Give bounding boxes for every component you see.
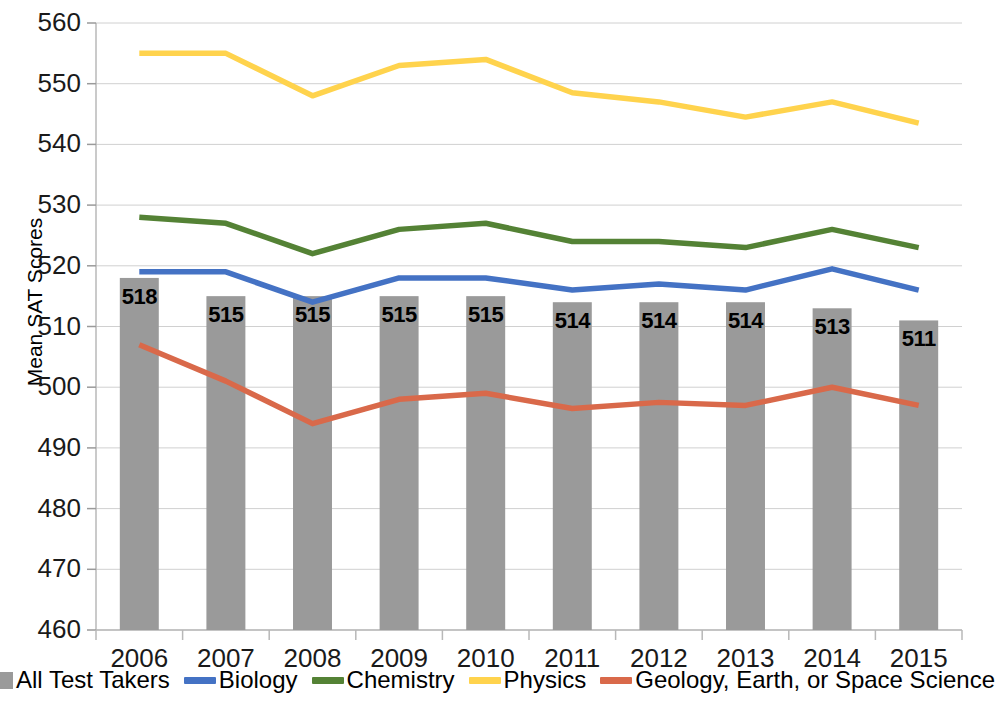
legend-label: Physics — [504, 668, 587, 692]
bar-value-label: 514 — [529, 308, 616, 334]
legend-item[interactable]: Physics — [469, 668, 587, 692]
legend-item[interactable]: All Test Takers — [0, 668, 170, 692]
series-line — [139, 269, 918, 302]
legend-label: All Test Takers — [16, 668, 170, 692]
y-tick-label: 470 — [19, 553, 81, 584]
series-line — [139, 53, 918, 123]
legend-bar-swatch-icon — [0, 672, 13, 689]
y-tick-label: 490 — [19, 432, 81, 463]
series-line — [139, 217, 918, 253]
bar — [206, 296, 245, 630]
legend-line-swatch-icon — [184, 677, 216, 684]
legend-label: Geology, Earth, or Space Science — [635, 668, 995, 692]
bar — [813, 308, 852, 630]
bar-value-label: 515 — [356, 302, 443, 328]
bar-value-label: 515 — [183, 302, 270, 328]
bar-value-label: 514 — [702, 308, 789, 334]
bar — [380, 296, 419, 630]
bar — [899, 320, 938, 630]
bar — [553, 302, 592, 630]
series-line — [139, 345, 918, 424]
legend-item[interactable]: Geology, Earth, or Space Science — [600, 668, 995, 692]
bar-value-label: 515 — [442, 302, 529, 328]
bar-value-label: 515 — [269, 302, 356, 328]
y-tick-label: 510 — [19, 311, 81, 342]
bar — [120, 278, 159, 630]
bar — [293, 296, 332, 630]
bar-value-label: 514 — [616, 308, 703, 334]
y-tick-label: 520 — [19, 250, 81, 281]
y-tick-label: 530 — [19, 189, 81, 220]
legend-line-swatch-icon — [312, 677, 344, 684]
y-tick-label: 560 — [19, 7, 81, 38]
bar-value-label: 518 — [96, 284, 183, 310]
bar-value-label: 513 — [789, 314, 876, 340]
bar — [726, 302, 765, 630]
legend-line-swatch-icon — [469, 677, 501, 684]
legend-label: Chemistry — [347, 668, 455, 692]
legend-label: Biology — [219, 668, 298, 692]
y-tick-label: 480 — [19, 493, 81, 524]
bar — [639, 302, 678, 630]
bar — [466, 296, 505, 630]
y-tick-label: 550 — [19, 68, 81, 99]
chart-legend: All Test TakersBiologyChemistryPhysicsGe… — [0, 668, 972, 692]
y-tick-label: 540 — [19, 128, 81, 159]
legend-line-swatch-icon — [600, 677, 632, 684]
legend-item[interactable]: Chemistry — [312, 668, 455, 692]
bar-value-label: 511 — [875, 326, 962, 352]
legend-item[interactable]: Biology — [184, 668, 298, 692]
y-tick-label: 460 — [19, 614, 81, 645]
y-tick-label: 500 — [19, 371, 81, 402]
